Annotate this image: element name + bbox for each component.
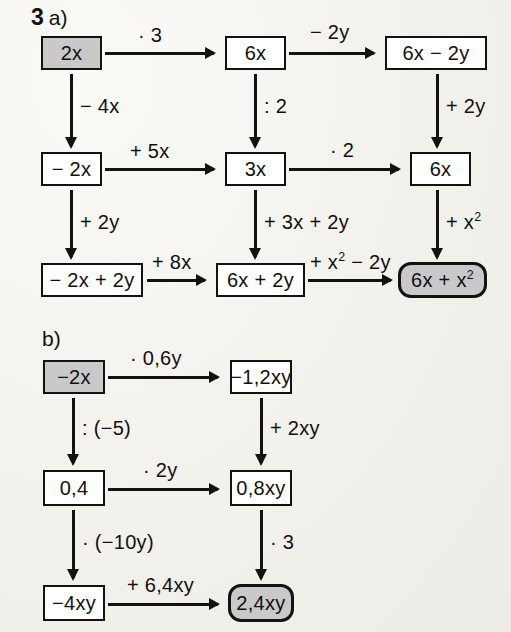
op-a-r3-2: + x2 − 2y bbox=[310, 252, 391, 272]
arrow-a-r2-1 bbox=[105, 168, 214, 171]
node-a-r3c1-label: − 2x + 2y bbox=[48, 270, 137, 290]
arrow-a-c2-1 bbox=[254, 74, 257, 146]
node-b-r1c2-label: −1,2xy bbox=[228, 367, 293, 387]
op-b-c2-2: · 3 bbox=[270, 532, 294, 552]
node-a-r3c2[interactable]: 6x + 2y bbox=[216, 263, 305, 297]
exercise-heading-a: 3a) bbox=[31, 6, 67, 29]
node-b-r3c1[interactable]: −4xy bbox=[43, 585, 105, 621]
node-b-r2c1-label: 0,4 bbox=[58, 478, 91, 498]
arrow-a-r1-1 bbox=[105, 52, 214, 55]
node-b-r3c1-label: −4xy bbox=[50, 593, 98, 613]
node-a-r2c3[interactable]: 6x bbox=[410, 152, 471, 186]
node-b-result-label: 2,4xy bbox=[234, 593, 287, 613]
part-b-label: b) bbox=[42, 328, 61, 349]
node-b-result[interactable]: 2,4xy bbox=[228, 584, 294, 622]
op-b-r1-1: · 0,6y bbox=[130, 348, 182, 368]
arrow-b-c1-2 bbox=[72, 510, 75, 578]
op-a-c3-1: + 2y bbox=[446, 96, 486, 116]
node-b-r2c1[interactable]: 0,4 bbox=[43, 470, 105, 506]
op-b-c1-2: · (−10y) bbox=[82, 532, 154, 552]
node-a-r2c1[interactable]: − 2x bbox=[41, 152, 102, 186]
node-a-r3c2-label: 6x + 2y bbox=[225, 270, 296, 290]
arrow-a-r1-2 bbox=[289, 52, 374, 55]
node-a-r2c2-label: 3x bbox=[243, 159, 269, 179]
arrow-a-c3-1 bbox=[436, 74, 439, 146]
arrow-a-r2-2 bbox=[289, 168, 399, 171]
node-a-start-label: 2x bbox=[59, 43, 85, 63]
op-b-c2-1: + 2xy bbox=[270, 418, 320, 438]
op-b-r2-1: · 2y bbox=[143, 460, 178, 480]
arrow-b-r3-1 bbox=[108, 603, 218, 606]
op-a-r1-2: − 2y bbox=[310, 22, 350, 42]
node-b-start[interactable]: −2x bbox=[43, 360, 105, 394]
arrow-b-r1-1 bbox=[108, 376, 218, 379]
exercise-number: 3 bbox=[31, 4, 44, 30]
node-b-r2c2[interactable]: 0,8xy bbox=[230, 470, 292, 506]
op-a-r2-2: · 2 bbox=[330, 140, 354, 160]
arrow-a-c1-1 bbox=[70, 74, 73, 146]
arrow-a-c1-2 bbox=[70, 190, 73, 257]
arrow-a-r3-1 bbox=[147, 279, 205, 282]
node-a-r1c3-label: 6x − 2y bbox=[400, 43, 471, 63]
node-a-start[interactable]: 2x bbox=[41, 36, 102, 70]
op-b-r3-1: + 6,4xy bbox=[127, 575, 194, 595]
node-a-result-label: 6x + x2 bbox=[409, 270, 476, 290]
node-a-r1c2-label: 6x bbox=[243, 43, 269, 63]
arrow-b-r2-1 bbox=[108, 488, 218, 491]
node-a-r3c1[interactable]: − 2x + 2y bbox=[41, 263, 143, 297]
worksheet-canvas: 3a) 2x 6x 6x − 2y − 2x 3x 6x − 2x + 2y 6… bbox=[0, 0, 511, 632]
arrow-b-c2-1 bbox=[260, 398, 263, 463]
node-b-r2c2-label: 0,8xy bbox=[234, 478, 287, 498]
op-a-c2-1: : 2 bbox=[264, 96, 287, 116]
arrow-a-c3-2 bbox=[436, 190, 439, 257]
op-a-c1-2: + 2y bbox=[80, 212, 120, 232]
op-b-c1-1: : (−5) bbox=[82, 418, 131, 438]
part-a-label: a) bbox=[49, 6, 68, 29]
arrow-b-c1-1 bbox=[72, 398, 75, 463]
node-b-start-label: −2x bbox=[55, 367, 93, 387]
node-a-r2c1-label: − 2x bbox=[50, 159, 94, 179]
node-a-r1c3[interactable]: 6x − 2y bbox=[385, 36, 487, 70]
op-a-c3-2: + x2 bbox=[446, 212, 481, 232]
op-a-c2-2: + 3x + 2y bbox=[264, 212, 349, 232]
arrow-b-c2-2 bbox=[260, 510, 263, 578]
node-b-r1c2[interactable]: −1,2xy bbox=[230, 360, 292, 394]
node-a-result[interactable]: 6x + x2 bbox=[398, 262, 487, 298]
arrow-a-r3-2 bbox=[308, 279, 391, 282]
node-a-r1c2[interactable]: 6x bbox=[225, 36, 286, 70]
node-a-r2c2[interactable]: 3x bbox=[225, 152, 286, 186]
op-a-r1-1: · 3 bbox=[138, 25, 162, 45]
arrow-a-c2-2 bbox=[254, 190, 257, 257]
op-a-c1-1: − 4x bbox=[80, 96, 120, 116]
node-a-r2c3-label: 6x bbox=[428, 159, 454, 179]
op-a-r3-1: + 8x bbox=[152, 252, 192, 272]
op-a-r2-1: + 5x bbox=[130, 141, 170, 161]
